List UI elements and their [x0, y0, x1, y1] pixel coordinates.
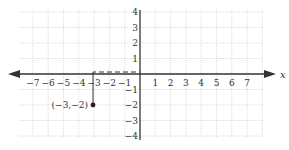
- y-tick-label: 4: [132, 7, 138, 17]
- y-tick-label: 3: [132, 23, 138, 33]
- point-label: (−3,−2): [52, 100, 88, 110]
- x-tick-label: −2: [103, 78, 116, 88]
- y-tick-label: −3: [125, 116, 139, 126]
- point-marker: [91, 103, 96, 108]
- x-tick-label: −3: [87, 78, 101, 88]
- arrow-right-icon: [264, 70, 276, 78]
- x-tick-label: 6: [229, 78, 235, 88]
- coordinate-plane: x −7−6−5−4−3−2−11234567 4321−1−2−3−4 (−3…: [0, 0, 289, 150]
- arrow-left-icon: [8, 70, 20, 78]
- x-tick-label: −4: [72, 78, 86, 88]
- y-tick-label: −2: [125, 100, 138, 110]
- x-axis-label: x: [280, 69, 286, 80]
- x-tick-label: 2: [168, 78, 174, 88]
- x-tick-label: 4: [198, 78, 204, 88]
- y-tick-label: −1: [125, 85, 138, 95]
- x-tick-labels: −7−6−5−4−3−2−11234567: [26, 78, 250, 88]
- y-tick-label: 2: [132, 38, 138, 48]
- x-tick-label: 5: [214, 78, 220, 88]
- x-tick-label: −7: [26, 78, 40, 88]
- x-tick-label: 1: [152, 78, 158, 88]
- x-tick-label: 7: [244, 78, 250, 88]
- x-tick-label: −6: [42, 78, 56, 88]
- x-tick-label: −5: [57, 78, 71, 88]
- x-tick-label: 3: [183, 78, 189, 88]
- y-tick-label: 1: [132, 54, 138, 64]
- y-tick-label: −4: [125, 131, 139, 141]
